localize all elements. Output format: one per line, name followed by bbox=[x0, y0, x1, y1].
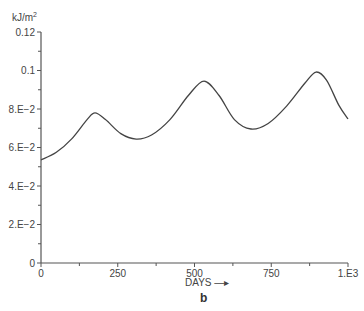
x-axis-title: DAYS —▸ bbox=[185, 277, 229, 288]
x-tick-label: 0 bbox=[38, 268, 44, 279]
series-line bbox=[41, 72, 348, 160]
y-tick-label: 2.E−2 bbox=[9, 219, 36, 230]
y-tick-label: 6.E−2 bbox=[9, 142, 36, 153]
x-tick-label: 250 bbox=[109, 268, 126, 279]
y-tick-label: 0.12 bbox=[16, 27, 36, 38]
y-tick-label: 8.E−2 bbox=[9, 104, 36, 115]
line-chart: kJ/m2 02.E−24.E−26.E−28.E−20.10.12 02505… bbox=[0, 0, 364, 311]
y-tick-label: 4.E−2 bbox=[9, 181, 36, 192]
y-tick-label: 0 bbox=[29, 258, 35, 269]
data-series bbox=[41, 72, 348, 160]
panel-label: b bbox=[200, 291, 207, 305]
y-axis-title: kJ/m2 bbox=[12, 11, 37, 23]
x-tick-label: 750 bbox=[263, 268, 280, 279]
x-tick-label: 1.E3 bbox=[338, 268, 359, 279]
y-axis: 02.E−24.E−26.E−28.E−20.10.12 bbox=[9, 27, 41, 269]
y-tick-label: 0.1 bbox=[21, 65, 35, 76]
